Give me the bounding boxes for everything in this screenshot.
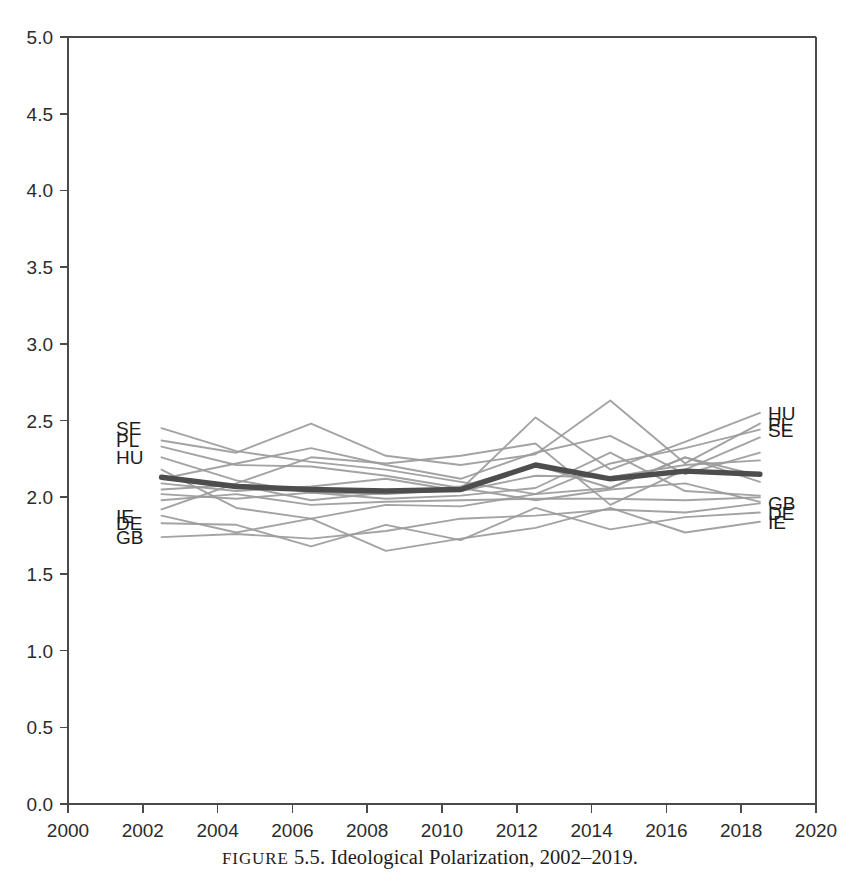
endpoint-label-left-hu: HU (116, 447, 143, 468)
endpoint-label-left-gb: GB (116, 527, 143, 548)
x-tick-label: 2004 (196, 820, 239, 841)
figure-container: 5.04.54.03.53.02.52.01.51.00.50.0 200020… (0, 0, 860, 891)
y-tick-label: 4.0 (27, 180, 53, 201)
caption-figure-word: FIGURE (222, 849, 289, 868)
x-tick-label: 2018 (720, 820, 762, 841)
x-tick-label: 2000 (47, 820, 89, 841)
y-tick-label: 0.0 (27, 794, 53, 815)
caption-number: 5.5. (294, 846, 325, 868)
y-tick-label: 1.5 (27, 564, 53, 585)
x-tick-label: 2012 (496, 820, 538, 841)
y-tick-label: 5.0 (27, 27, 53, 48)
x-tick-label: 2016 (645, 820, 687, 841)
y-tick-label: 3.5 (27, 257, 53, 278)
x-tick-label: 2014 (570, 820, 613, 841)
endpoint-label-right-ie: IE (768, 512, 786, 533)
x-tick-label: 2006 (271, 820, 313, 841)
x-tick-label: 2002 (122, 820, 164, 841)
y-tick-label: 4.5 (27, 104, 53, 125)
x-tick-label: 2008 (346, 820, 388, 841)
y-tick-label: 2.5 (27, 411, 53, 432)
y-tick-label: 2.0 (27, 487, 53, 508)
y-tick-label: 3.0 (27, 334, 53, 355)
figure-caption: FIGURE 5.5. Ideological Polarization, 20… (0, 846, 860, 869)
x-tick-label: 2010 (421, 820, 463, 841)
ideological-polarization-chart: 5.04.54.03.53.02.52.01.51.00.50.0 200020… (0, 0, 860, 846)
endpoint-label-right-se: SE (768, 420, 793, 441)
x-tick-label: 2020 (795, 820, 837, 841)
y-tick-label: 0.5 (27, 717, 53, 738)
caption-text: Ideological Polarization, 2002–2019. (330, 846, 638, 868)
y-tick-label: 1.0 (27, 641, 53, 662)
